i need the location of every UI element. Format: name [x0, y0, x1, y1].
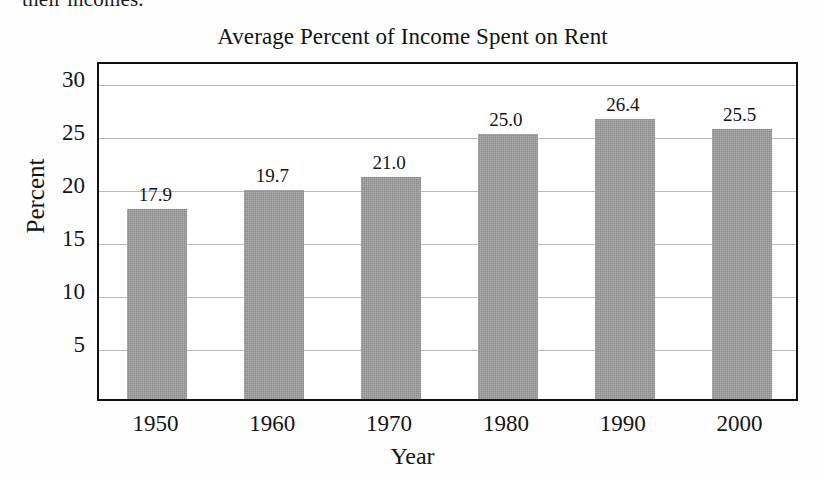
bar-value-label: 26.4	[578, 94, 668, 116]
bar	[361, 177, 421, 399]
cropped-body-text: their incomes.	[22, 0, 144, 12]
gridline	[99, 191, 796, 192]
plot-area	[99, 64, 796, 399]
x-axis-title: Year	[0, 443, 825, 470]
gridline	[99, 85, 796, 86]
bar	[244, 190, 304, 399]
bar-value-label: 21.0	[344, 152, 434, 174]
y-axis-tick-label: 25	[25, 120, 85, 146]
gridline	[99, 138, 796, 139]
x-axis-tick-label: 1990	[563, 411, 683, 437]
bar-value-label: 25.5	[695, 104, 785, 126]
y-axis-tick-label: 30	[25, 67, 85, 93]
bar	[478, 134, 538, 399]
gridline	[99, 350, 796, 351]
plot-frame	[97, 62, 798, 401]
chart-page: their incomes. Average Percent of Income…	[0, 0, 825, 480]
gridline	[99, 297, 796, 298]
bar-value-label: 19.7	[227, 165, 317, 187]
x-axis-tick-label: 1970	[329, 411, 449, 437]
bar	[127, 209, 187, 399]
y-axis-tick-label: 5	[25, 332, 85, 358]
x-axis-tick-label: 1960	[212, 411, 332, 437]
bar	[595, 119, 655, 399]
y-axis-tick-label: 10	[25, 279, 85, 305]
bar	[712, 129, 772, 399]
bar-value-label: 25.0	[461, 109, 551, 131]
y-axis-tick-label: 15	[25, 226, 85, 252]
chart-title: Average Percent of Income Spent on Rent	[0, 24, 825, 50]
y-axis-tick-label: 20	[25, 173, 85, 199]
gridline	[99, 244, 796, 245]
bar-value-label: 17.9	[110, 184, 200, 206]
x-axis-tick-label: 1980	[446, 411, 566, 437]
x-axis-tick-label: 2000	[680, 411, 800, 437]
x-axis-tick-label: 1950	[95, 411, 215, 437]
